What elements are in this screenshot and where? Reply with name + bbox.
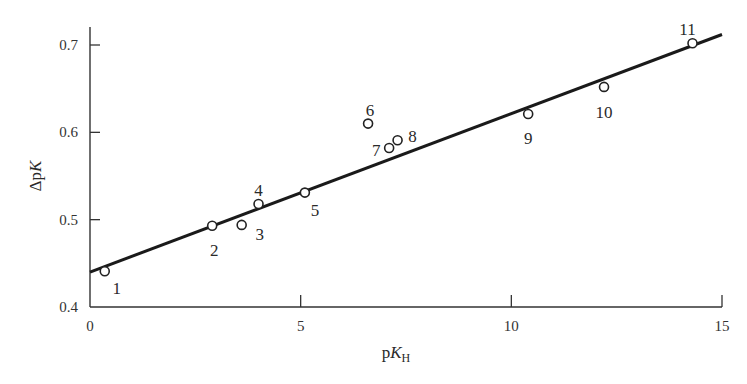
point-label: 9	[524, 129, 533, 148]
fit-line	[90, 35, 722, 273]
point-label: 8	[408, 127, 417, 146]
data-point-marker	[688, 39, 697, 48]
data-point-marker	[524, 109, 533, 118]
y-tick-label: 0.5	[59, 212, 78, 228]
data-point-marker	[393, 136, 402, 145]
point-label: 2	[210, 241, 219, 260]
point-labels: 1234567891011	[112, 20, 695, 298]
data-point-marker	[600, 82, 609, 91]
scatter-chart: 0.40.50.60.7051015 1234567891011 pKH ΔpK	[0, 0, 747, 384]
point-label: 3	[255, 225, 264, 244]
data-point-marker	[100, 267, 109, 276]
y-axis-title: ΔpK	[26, 159, 45, 191]
data-point-marker	[237, 220, 246, 229]
data-point-marker	[300, 188, 309, 197]
y-tick-label: 0.4	[59, 299, 78, 315]
axes: 0.40.50.60.7051015	[59, 27, 729, 334]
x-axis-title: pKH	[382, 343, 411, 365]
data-point-marker	[385, 144, 394, 153]
y-tick-label: 0.7	[59, 37, 78, 53]
x-tick-label: 10	[504, 318, 519, 334]
point-label: 1	[112, 279, 121, 298]
point-label: 11	[679, 20, 695, 39]
y-tick-label: 0.6	[59, 124, 78, 140]
x-tick-label: 15	[715, 318, 730, 334]
point-label: 7	[372, 141, 381, 160]
regression-line	[90, 35, 722, 273]
x-tick-label: 0	[86, 318, 94, 334]
data-point-marker	[364, 119, 373, 128]
data-point-marker	[254, 199, 263, 208]
x-tick-label: 5	[297, 318, 305, 334]
point-label: 4	[254, 181, 263, 200]
point-label: 10	[596, 103, 613, 122]
point-label: 6	[366, 101, 375, 120]
point-label: 5	[311, 201, 320, 220]
data-point-marker	[208, 221, 217, 230]
